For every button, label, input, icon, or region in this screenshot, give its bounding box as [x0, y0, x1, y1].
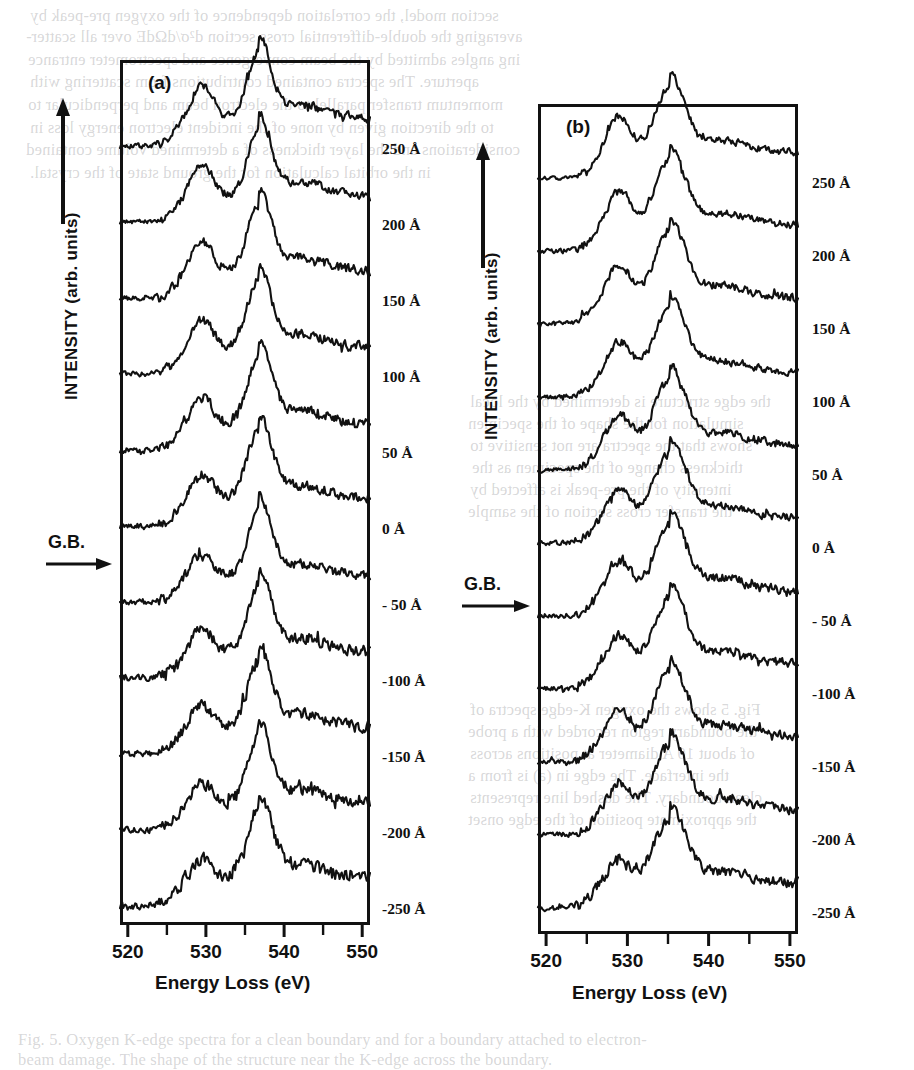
panel-a-spectra [120, 60, 370, 925]
spectrum-trace [538, 218, 798, 327]
spectrum-trace [538, 583, 798, 692]
x-tick-label: 550 [338, 941, 386, 963]
trace-label: 100 Å [382, 368, 420, 386]
eels-figure: INTENSITY (arb. units) (a) 520530540550 … [0, 0, 914, 1070]
panel-b-gb-label: G.B. [464, 574, 501, 595]
panel-b-spectra [538, 104, 798, 934]
panel-a-x-axis-label: Energy Loss (eV) [155, 972, 310, 994]
spectrum-trace [538, 437, 798, 545]
trace-label: 0 Å [812, 539, 835, 557]
x-tick-label: 540 [260, 941, 308, 963]
trace-label: 100 Å [812, 393, 850, 411]
spectrum-trace [120, 720, 370, 833]
spectrum-trace [120, 644, 370, 756]
trace-label: - 50 Å [812, 612, 852, 630]
panel-b-x-axis-ticks [538, 934, 800, 950]
trace-label: -150 Å [382, 748, 425, 766]
spectrum-trace [538, 729, 798, 837]
spectrum-trace [538, 802, 798, 911]
trace-label: 150 Å [382, 292, 420, 310]
x-tick-label: 530 [603, 950, 651, 972]
trace-label: -100 Å [382, 672, 425, 690]
trace-label: -200 Å [382, 824, 425, 842]
panel-a-gb-label: G.B. [48, 532, 85, 553]
panel-a-x-axis-ticks [120, 925, 372, 941]
spectrum-trace [120, 416, 370, 529]
panel-a-y-axis-arrow-icon [50, 96, 76, 226]
spectrum-trace [120, 36, 370, 149]
spectrum-trace [538, 510, 798, 618]
trace-label: 250 Å [382, 140, 420, 158]
trace-label: 200 Å [382, 216, 420, 234]
x-tick-label: 550 [766, 950, 814, 972]
panel-b-x-axis-label: Energy Loss (eV) [572, 982, 727, 1004]
trace-label: -100 Å [812, 685, 855, 703]
trace-label: - 50 Å [382, 596, 422, 614]
trace-label: 0 Å [382, 520, 405, 538]
trace-label: 150 Å [812, 320, 850, 338]
panel-a: INTENSITY (arb. units) (a) 520530540550 … [0, 0, 460, 1000]
x-tick-label: 520 [522, 950, 570, 972]
trace-label: -200 Å [812, 831, 855, 849]
spectrum-trace [120, 568, 370, 681]
panel-a-gb-arrow-icon [46, 556, 114, 572]
spectrum-trace [120, 112, 370, 224]
spectrum-trace [120, 264, 370, 377]
trace-label: -250 Å [382, 900, 425, 918]
spectrum-trace [538, 72, 798, 180]
trace-label: -150 Å [812, 758, 855, 776]
trace-label: 50 Å [382, 444, 413, 462]
spectrum-trace [538, 145, 798, 253]
x-tick-label: 540 [685, 950, 733, 972]
spectrum-trace [120, 796, 370, 910]
trace-label: 250 Å [812, 174, 850, 192]
spectrum-trace [120, 492, 370, 605]
x-tick-label: 530 [182, 941, 230, 963]
trace-label: -250 Å [812, 904, 855, 922]
panel-b: INTENSITY (arb. units) (b) 520530540550 … [420, 0, 914, 1010]
trace-label: 200 Å [812, 247, 850, 265]
spectrum-trace [120, 188, 370, 302]
panel-b-y-axis-label: INTENSITY (arb. units) [482, 252, 502, 440]
panel-a-y-axis-label: INTENSITY (arb. units) [62, 212, 82, 400]
panel-b-y-axis-arrow-icon [470, 140, 496, 270]
panel-b-gb-arrow-icon [462, 598, 532, 614]
spectrum-trace [120, 340, 370, 454]
x-tick-label: 520 [104, 941, 152, 963]
trace-label: 50 Å [812, 466, 843, 484]
